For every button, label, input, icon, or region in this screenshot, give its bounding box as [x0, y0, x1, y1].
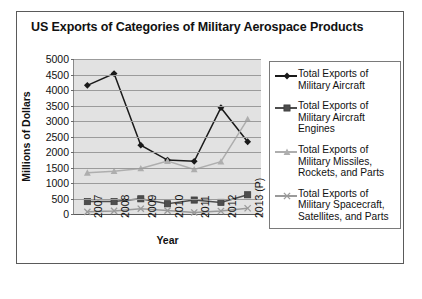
legend-item[interactable]: Total Exports of Military Aircraft Engin…	[274, 100, 396, 135]
legend-marker-cross-icon	[274, 189, 298, 202]
y-tick-label: 1500	[46, 162, 69, 174]
data-point-diamond	[84, 82, 91, 89]
x-tick-label: 2008	[119, 195, 131, 218]
legend-symbol	[282, 147, 292, 157]
gridline	[74, 183, 261, 184]
data-point-diamond	[191, 158, 198, 165]
data-point-diamond	[137, 142, 144, 149]
y-tick-label: 4500	[46, 69, 69, 81]
y-tick-label: 2500	[46, 131, 69, 143]
x-tick-label: 2009	[146, 195, 158, 218]
gridline	[74, 121, 261, 122]
y-tick-mark	[71, 121, 74, 122]
x-tick-label: 2007	[92, 195, 104, 218]
y-tick-label: 500	[51, 193, 69, 205]
data-point-square	[284, 105, 290, 111]
legend-symbol	[282, 71, 292, 81]
legend-label: Total Exports of Military Missiles, Rock…	[298, 144, 396, 179]
data-point-square	[164, 201, 170, 207]
y-tick-mark	[71, 137, 74, 138]
y-tick-mark	[71, 152, 74, 153]
data-point-square	[218, 199, 224, 205]
data-point-square	[245, 192, 251, 198]
x-tick-label: 2010	[173, 195, 185, 218]
legend-label: Total Exports of Military Aircraft	[298, 68, 396, 91]
plot-area: 0500100015002000250030003500400045005000…	[73, 59, 261, 215]
legend-marker-diamond-icon	[274, 69, 298, 82]
gridline	[74, 106, 261, 107]
x-tick-label: 2012	[226, 195, 238, 218]
x-axis-title: Year	[73, 234, 262, 246]
legend-symbol	[282, 191, 292, 201]
legend-marker-triangle-icon	[274, 145, 298, 158]
y-tick-mark	[71, 214, 74, 215]
chart-page: US Exports of Categories of Military Aer…	[0, 0, 422, 299]
chart-legend: Total Exports of Military AircraftTotal …	[269, 61, 401, 229]
y-tick-mark	[71, 168, 74, 169]
series-line	[87, 74, 247, 162]
data-point-triangle	[284, 149, 291, 155]
legend-item[interactable]: Total Exports of Military Spacecraft, Sa…	[274, 188, 396, 223]
chart-frame: US Exports of Categories of Military Aer…	[16, 11, 404, 264]
y-tick-mark	[71, 90, 74, 91]
y-tick-mark	[71, 106, 74, 107]
legend-label: Total Exports of Military Aircraft Engin…	[298, 100, 396, 135]
y-tick-label: 3500	[46, 100, 69, 112]
gridline	[74, 168, 261, 169]
data-point-diamond	[284, 73, 291, 80]
data-point-cross	[284, 193, 290, 199]
gridline	[74, 90, 261, 91]
legend-symbol	[282, 103, 292, 113]
y-tick-mark	[71, 199, 74, 200]
y-tick-label: 0	[63, 208, 69, 220]
y-tick-label: 4000	[46, 84, 69, 96]
y-axis-title: Millions of Dollars	[20, 59, 34, 214]
y-tick-mark	[71, 59, 74, 60]
legend-marker-square-icon	[274, 101, 298, 114]
gridline	[74, 152, 261, 153]
y-tick-label: 3000	[46, 115, 69, 127]
legend-item[interactable]: Total Exports of Military Aircraft	[274, 68, 396, 91]
gridline	[74, 75, 261, 76]
x-tick-label: 2011	[199, 195, 211, 218]
y-tick-mark	[71, 75, 74, 76]
y-tick-label: 5000	[46, 53, 69, 65]
y-tick-mark	[71, 183, 74, 184]
legend-item[interactable]: Total Exports of Military Missiles, Rock…	[274, 144, 396, 179]
series-line	[87, 119, 247, 173]
chart-title: US Exports of Categories of Military Aer…	[31, 20, 391, 34]
x-tick-label: 2013 (P)	[253, 178, 265, 218]
gridline	[74, 137, 261, 138]
gridline	[74, 59, 261, 60]
legend-label: Total Exports of Military Spacecraft, Sa…	[298, 188, 396, 223]
y-tick-label: 2000	[46, 146, 69, 158]
y-tick-label: 1000	[46, 177, 69, 189]
